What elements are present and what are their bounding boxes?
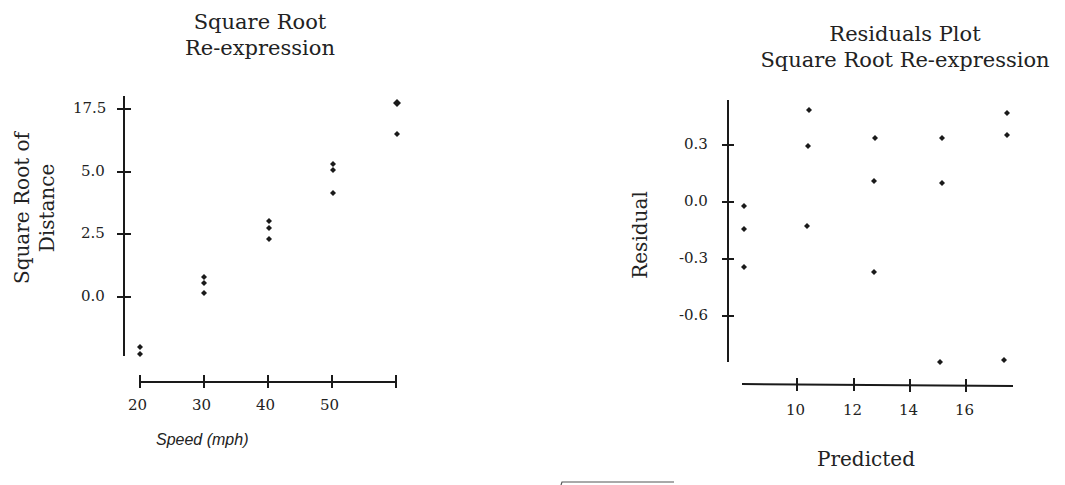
data-point (330, 190, 336, 196)
data-point (939, 135, 945, 141)
left-x-tick-label: 30 (192, 396, 211, 414)
right-title-line-2: Square Root Re-expression (745, 47, 1065, 73)
data-point (201, 290, 207, 296)
left-y-tick-label: 5.0 (81, 162, 105, 180)
data-point (330, 167, 336, 173)
data-point (741, 226, 747, 232)
left-x-tick-label: 20 (128, 396, 147, 414)
right-title-line-1: Residuals Plot (745, 21, 1065, 47)
left-title-line-1: Square Root (130, 9, 390, 35)
right-chart-title: Residuals Plot Square Root Re-expression (745, 21, 1065, 73)
data-point (393, 99, 401, 107)
data-point (804, 223, 810, 229)
data-point (137, 344, 143, 350)
right-y-axis-label: Residual (628, 180, 653, 290)
left-y-tick-label: 17.5 (73, 99, 106, 117)
data-point (1004, 132, 1010, 138)
data-point (330, 161, 336, 167)
left-chart (117, 96, 396, 388)
left-title-line-2: Re-expression (130, 35, 390, 61)
right-x-tick-label: 16 (955, 401, 974, 419)
data-point (266, 225, 272, 231)
left-ylabel-line-1: Square Root of (10, 88, 35, 328)
left-x-tick-label: 40 (256, 396, 275, 414)
left-ylabel-line-2: Distance (35, 88, 60, 328)
left-y-axis-label: Square Root of Distance (10, 88, 60, 328)
data-point (871, 269, 877, 275)
data-point (137, 351, 143, 357)
data-point (806, 107, 812, 113)
data-point (201, 274, 207, 280)
data-point (394, 131, 400, 137)
right-x-tick-label: 10 (786, 401, 805, 419)
right-chart (722, 100, 1013, 392)
left-x-tick-label: 50 (320, 396, 339, 414)
right-y-tick-label: -0.3 (679, 249, 708, 267)
right-points (741, 107, 1010, 365)
right-x-axis-label: Predicted (817, 447, 915, 471)
right-x-tick-label: 12 (843, 401, 862, 419)
data-point (1001, 357, 1007, 363)
left-y-tick-label: 0.0 (81, 287, 105, 305)
data-point (741, 264, 747, 270)
right-x-tick-label: 14 (899, 401, 918, 419)
right-y-tick-label: 0.0 (684, 192, 708, 210)
data-point (201, 280, 207, 286)
data-point (871, 178, 877, 184)
left-points (137, 99, 401, 357)
right-x-axis (742, 384, 1013, 386)
right-y-tick-label: -0.6 (679, 306, 708, 324)
data-point (872, 135, 878, 141)
left-x-axis-label: Speed (mph) (156, 431, 249, 449)
data-point (266, 218, 272, 224)
data-point (937, 359, 943, 365)
left-y-tick-label: 2.5 (81, 224, 105, 242)
left-chart-title: Square Root Re-expression (130, 9, 390, 61)
data-point (805, 143, 811, 149)
data-point (939, 180, 945, 186)
data-point (266, 236, 272, 242)
right-y-tick-label: 0.3 (684, 135, 708, 153)
data-point (741, 203, 747, 209)
data-point (1004, 110, 1010, 116)
